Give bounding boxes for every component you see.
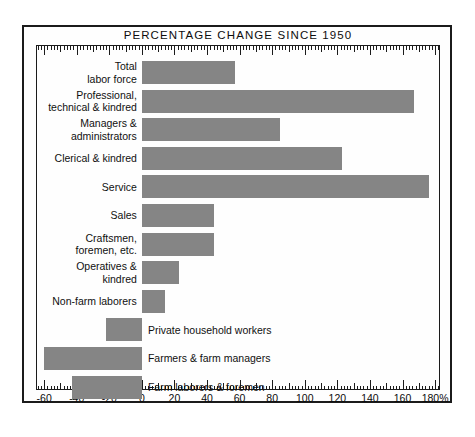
category-label-line: Private household workers bbox=[148, 324, 272, 337]
bar bbox=[142, 61, 235, 84]
bar-row: Private household workers bbox=[0, 318, 475, 341]
bar-row: Service bbox=[0, 175, 475, 198]
category-label-line: Operatives & bbox=[0, 260, 137, 273]
bar bbox=[72, 376, 142, 399]
category-label-line: Non-farm laborers bbox=[0, 295, 137, 308]
category-label-line: foremen, etc. bbox=[0, 244, 137, 257]
bar-row: Professional,technical & kindred bbox=[0, 90, 475, 113]
category-label-line: labor force bbox=[0, 73, 137, 86]
bar bbox=[44, 347, 142, 370]
category-label-line: Managers & bbox=[0, 117, 137, 130]
category-label-line: Clerical & kindred bbox=[0, 152, 137, 165]
category-label: Operatives &kindred bbox=[0, 260, 137, 285]
bar bbox=[142, 118, 280, 141]
bar bbox=[142, 290, 165, 313]
category-label: Farm laborers & foremen bbox=[148, 381, 265, 394]
category-label: Non-farm laborers bbox=[0, 295, 137, 308]
bar bbox=[106, 318, 142, 341]
category-label: Private household workers bbox=[148, 324, 272, 337]
category-label: Craftsmen,foremen, etc. bbox=[0, 232, 137, 257]
category-label-line: Professional, bbox=[0, 89, 137, 102]
category-label: Service bbox=[0, 181, 137, 194]
bar-row: Totallabor force bbox=[0, 61, 475, 84]
bar-row: Operatives &kindred bbox=[0, 261, 475, 284]
category-label-line: administrators bbox=[0, 130, 137, 143]
chart-root: PERCENTAGE CHANGE SINCE 1950 -60-40-2002… bbox=[0, 0, 475, 437]
bar-row: Farm laborers & foremen bbox=[0, 376, 475, 399]
bar-row: Sales bbox=[0, 204, 475, 227]
bar-row: Farmers & farm managers bbox=[0, 347, 475, 370]
category-label: Professional,technical & kindred bbox=[0, 89, 137, 114]
bar bbox=[142, 90, 414, 113]
bar-row: Non-farm laborers bbox=[0, 290, 475, 313]
bar-row: Managers &administrators bbox=[0, 118, 475, 141]
bar-row: Clerical & kindred bbox=[0, 147, 475, 170]
bar-rows: Totallabor forceProfessional,technical &… bbox=[0, 0, 475, 437]
category-label-line: Farm laborers & foremen bbox=[148, 381, 265, 394]
bar bbox=[142, 175, 429, 198]
category-label-line: Farmers & farm managers bbox=[148, 352, 271, 365]
category-label-line: Service bbox=[0, 181, 137, 194]
category-label-line: technical & kindred bbox=[0, 101, 137, 114]
bar bbox=[142, 204, 214, 227]
category-label-line: Craftsmen, bbox=[0, 232, 137, 245]
category-label-line: Sales bbox=[0, 209, 137, 222]
category-label: Clerical & kindred bbox=[0, 152, 137, 165]
bar bbox=[142, 261, 179, 284]
category-label: Farmers & farm managers bbox=[148, 352, 271, 365]
category-label: Sales bbox=[0, 209, 137, 222]
category-label: Totallabor force bbox=[0, 60, 137, 85]
bar bbox=[142, 233, 214, 256]
category-label: Managers &administrators bbox=[0, 117, 137, 142]
category-label-line: Total bbox=[0, 60, 137, 73]
bar bbox=[142, 147, 342, 170]
category-label-line: kindred bbox=[0, 273, 137, 286]
bar-row: Craftsmen,foremen, etc. bbox=[0, 233, 475, 256]
